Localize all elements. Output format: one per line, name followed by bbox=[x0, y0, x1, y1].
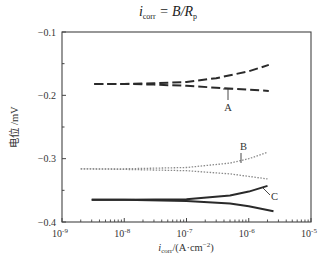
chart: icorr = B/Rp −0.1−0.2−0.3−0.4 10-910-810… bbox=[0, 0, 336, 269]
series-B bbox=[81, 152, 268, 179]
series-A bbox=[94, 65, 268, 91]
label-text: A bbox=[224, 102, 232, 113]
curve-B-branch-lower bbox=[81, 169, 268, 179]
curve-B-branch-upper bbox=[81, 152, 268, 169]
series-C bbox=[92, 186, 274, 211]
label-leader bbox=[263, 188, 270, 195]
curve-label-A: A bbox=[223, 89, 233, 113]
svg-text:电位 /mV: 电位 /mV bbox=[8, 106, 20, 148]
label-text: C bbox=[271, 191, 278, 202]
curve-A-branch-lower bbox=[94, 84, 268, 91]
y-axis-label: 电位 /mV bbox=[8, 106, 20, 148]
curve-C-branch-upper bbox=[92, 186, 268, 200]
curve-A-branch-upper bbox=[94, 65, 268, 84]
y-tick-label: −0.3 bbox=[38, 153, 56, 164]
y-tick-label: −0.4 bbox=[38, 217, 56, 228]
y-tick-label: −0.1 bbox=[38, 27, 56, 38]
curve-C-branch-lower bbox=[92, 200, 274, 211]
x-tick-label: 10-6 bbox=[239, 227, 255, 239]
x-tick-label: 10-5 bbox=[301, 227, 317, 239]
x-tick-label: 10-9 bbox=[52, 227, 68, 239]
svg-text:icorr/(A·cm−2): icorr/(A·cm−2) bbox=[158, 241, 214, 255]
x-tick-label: 10-8 bbox=[114, 227, 130, 239]
x-axis-ticks: 10-910-810-710-610-5 bbox=[52, 218, 317, 239]
label-text: B bbox=[240, 141, 247, 152]
y-tick-label: −0.2 bbox=[38, 90, 56, 101]
x-axis-label: icorr/(A·cm−2) bbox=[158, 241, 214, 255]
chart-title: icorr = B/Rp bbox=[139, 4, 197, 21]
x-tick-label: 10-7 bbox=[177, 227, 193, 239]
svg-text:icorr = B/Rp: icorr = B/Rp bbox=[139, 4, 197, 21]
curve-label-C: C bbox=[263, 188, 278, 202]
curve-labels: ABC bbox=[223, 89, 278, 202]
data-series bbox=[81, 65, 274, 211]
